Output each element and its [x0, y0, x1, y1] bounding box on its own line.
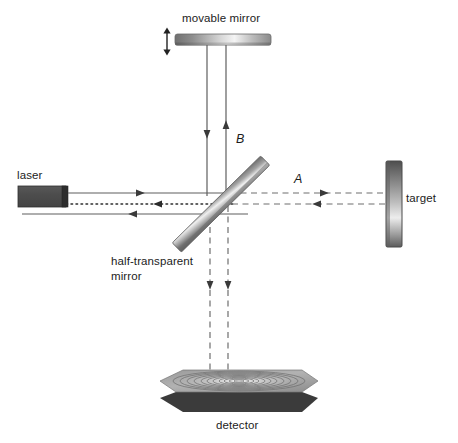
beam-arm-a	[230, 190, 393, 208]
target-mirror	[386, 161, 402, 247]
beam-reference-return-arrow	[153, 201, 162, 208]
half-transparent-mirror-edge	[179, 162, 270, 252]
beam-laser-out-arrow	[136, 190, 145, 197]
movable-mirror	[175, 34, 271, 46]
beam-a-back-arrow	[312, 201, 321, 208]
movable-mirror-label: movable mirror	[182, 12, 260, 24]
detector-side	[160, 392, 318, 412]
beam-b-down-arrow	[204, 130, 211, 139]
beam-to-detector	[207, 206, 232, 382]
laser-source	[18, 186, 68, 207]
beam-b-label: B	[236, 132, 244, 146]
target-label: target	[406, 192, 436, 204]
interferometer-figure: movable mirror laser target half-transpa…	[0, 0, 458, 443]
laser-label: laser	[17, 169, 42, 181]
beam-a-out-arrow	[320, 190, 329, 197]
beam-a-label: A	[294, 172, 302, 186]
beam-measurement-return-arrow	[128, 211, 137, 218]
movable-mirror-underside	[175, 43, 271, 46]
beam-detector-right-arrow	[225, 281, 232, 290]
movable-mirror-motion-arrow	[163, 27, 170, 55]
laser-body	[18, 186, 66, 207]
diagram-canvas	[0, 0, 458, 443]
half-transparent-mirror-label: half-transparent mirror	[111, 254, 193, 284]
detector-label: detector	[216, 419, 258, 431]
detector	[160, 369, 318, 412]
target-front-edge	[386, 161, 390, 247]
beam-b-up-arrow	[223, 120, 230, 129]
beam-arm-b	[204, 45, 230, 196]
beam-detector-left-arrow	[207, 281, 214, 290]
